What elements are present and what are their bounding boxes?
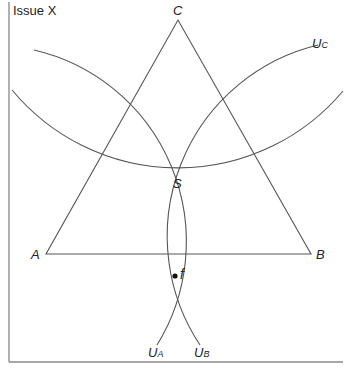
indifference-curve-a (34, 50, 186, 345)
triangle-abc (46, 20, 311, 254)
point-label-s: S (173, 176, 182, 191)
vertex-label-b: B (316, 247, 325, 262)
vertex-label-c: C (173, 3, 183, 18)
y-axis-label: Issue X (13, 3, 57, 18)
spatial-voting-diagram: Issue X C A B S f UC UA UB (0, 0, 349, 369)
curve-label-ub: UB (194, 345, 209, 360)
curve-label-uc: UC (312, 36, 328, 51)
point-f-dot (172, 273, 177, 278)
point-label-f: f (180, 266, 186, 282)
curve-label-ua: UA (148, 345, 163, 360)
indifference-curve-b (167, 45, 318, 345)
indifference-curve-c-arc (12, 90, 343, 168)
vertex-label-a: A (30, 247, 40, 262)
